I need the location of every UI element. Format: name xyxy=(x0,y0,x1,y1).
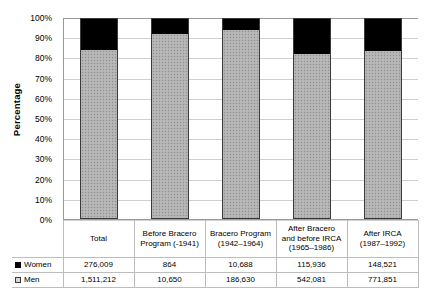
bar-segment-men[interactable] xyxy=(294,54,330,218)
y-axis-tick-label: 10% xyxy=(2,196,52,204)
table-cell-women-value: 148,521 xyxy=(347,258,418,273)
stacked-bar[interactable] xyxy=(222,18,260,219)
table-column-header: After Braceroand before IRCA(1965–1986) xyxy=(276,220,347,258)
bar-segment-men[interactable] xyxy=(365,51,401,218)
bar-segment-men[interactable] xyxy=(223,30,259,218)
table-column-header-line: After IRCA xyxy=(349,229,417,239)
table-column-header-line: and before IRCA xyxy=(278,234,346,244)
bar-segment-men[interactable] xyxy=(152,34,188,218)
stacked-bar[interactable] xyxy=(80,18,118,219)
y-axis-tick-label: 100% xyxy=(2,14,52,22)
y-axis-tick-label: 20% xyxy=(2,176,52,184)
bar-slot xyxy=(347,18,418,219)
table-column-header-line: Bracero Program xyxy=(207,229,275,239)
table-cell-women-value: 115,936 xyxy=(276,258,347,273)
bar-segment-women[interactable] xyxy=(152,19,188,34)
table-column-header: Bracero Program(1942–1964) xyxy=(205,220,276,258)
stacked-bar[interactable] xyxy=(293,18,331,219)
table-row-women: Women 276,00986410,688115,936148,521 xyxy=(12,258,418,273)
table-cell-women-value: 864 xyxy=(134,258,205,273)
table-column-header-line: (1987–1992) xyxy=(349,239,417,249)
table-column-header: After IRCA(1987–1992) xyxy=(347,220,418,258)
y-axis-tick-label: 50% xyxy=(2,115,52,123)
y-axis-tick-label: 90% xyxy=(2,34,52,42)
table-column-header-line: (1965–1986) xyxy=(278,243,346,253)
table-column-header-line: (1942–1964) xyxy=(207,239,275,249)
y-axis-title: Percentage xyxy=(11,50,22,170)
bar-slot xyxy=(135,18,206,219)
legend-swatch-women-icon xyxy=(15,262,21,268)
y-axis-tick-label: 80% xyxy=(2,54,52,62)
table-cell-men-value: 186,630 xyxy=(205,273,276,288)
table-cell-men-value: 771,851 xyxy=(347,273,418,288)
bar-segment-women[interactable] xyxy=(81,19,117,50)
y-axis-tick-label: 40% xyxy=(2,135,52,143)
table-cell-women-value: 276,009 xyxy=(63,258,134,273)
y-axis-tick-label: 70% xyxy=(2,75,52,83)
table-column-header: Total xyxy=(63,220,134,258)
table-column-header-line: Total xyxy=(65,234,133,244)
legend-item-men: Men xyxy=(12,273,63,288)
legend-item-women: Women xyxy=(12,258,63,273)
table-header-row: TotalBefore BraceroProgram (-1941)Bracer… xyxy=(12,220,418,258)
table-row-men: Men 1,511,21210,650186,630542,081771,851 xyxy=(12,273,418,288)
y-axis-tick-label: 60% xyxy=(2,95,52,103)
legend-swatch-men-icon xyxy=(15,277,21,283)
legend-label-men: Men xyxy=(24,275,40,284)
data-table: TotalBefore BraceroProgram (-1941)Bracer… xyxy=(12,220,419,288)
legend-label-women: Women xyxy=(24,260,51,269)
bar-segment-women[interactable] xyxy=(294,19,330,54)
table-cell-women-value: 10,688 xyxy=(205,258,276,273)
table-cell-men-value: 1,511,212 xyxy=(63,273,134,288)
plot-area: 100%90%80%70%60%50%40%30%20%10%0% xyxy=(63,18,418,220)
table-column-header: Before BraceroProgram (-1941) xyxy=(134,220,205,258)
chart-container: Percentage 100%90%80%70%60%50%40%30%20%1… xyxy=(0,0,424,298)
table-column-header-line: Before Bracero xyxy=(136,229,204,239)
bar-segment-women[interactable] xyxy=(223,19,259,30)
bar-group xyxy=(64,18,418,219)
bar-slot xyxy=(64,18,135,219)
bar-segment-women[interactable] xyxy=(365,19,401,51)
stacked-bar[interactable] xyxy=(151,18,189,219)
table-cell-men-value: 10,650 xyxy=(134,273,205,288)
bar-segment-men[interactable] xyxy=(81,50,117,218)
table-header-corner xyxy=(12,220,63,258)
table-cell-men-value: 542,081 xyxy=(276,273,347,288)
table-column-header-line: After Bracero xyxy=(278,224,346,234)
table-column-header-line: Program (-1941) xyxy=(136,239,204,249)
bar-slot xyxy=(276,18,347,219)
y-axis-tick-label: 30% xyxy=(2,155,52,163)
stacked-bar[interactable] xyxy=(364,18,402,219)
bar-slot xyxy=(206,18,277,219)
